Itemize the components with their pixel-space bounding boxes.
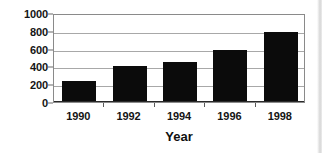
x-axis-tick-label-1996: 1996 <box>217 110 241 123</box>
x-axis-baseline <box>54 101 304 102</box>
x-axis-tick-mark-2 <box>154 103 155 107</box>
y-axis-tick-label-200: 200 <box>30 80 48 91</box>
x-axis-tick-label-1990: 1990 <box>66 110 90 123</box>
x-axis-tick-mark-1 <box>103 103 104 107</box>
bar-slot-1992 <box>104 15 154 102</box>
bar-1998[interactable] <box>264 32 298 102</box>
x-axis-tick-mark-4 <box>255 103 256 107</box>
y-axis-tick-labels: 1000 800 600 400 200 0 <box>2 14 48 103</box>
bar-1996[interactable] <box>213 50 247 103</box>
x-axis-title: Year <box>53 129 305 145</box>
bar-chart: 1000 800 600 400 200 0 <box>0 0 322 153</box>
bar-1990[interactable] <box>62 81 96 102</box>
x-axis-tick-label-1994: 1994 <box>167 110 191 123</box>
x-axis-tick-mark-3 <box>204 103 205 107</box>
bar-slot-1998 <box>256 15 306 102</box>
y-axis-tick-label-1000: 1000 <box>24 9 48 20</box>
y-axis-tick-label-400: 400 <box>30 62 48 73</box>
x-axis-tick-label-1992: 1992 <box>117 110 141 123</box>
scan-edge-artifact <box>317 0 322 153</box>
bar-series <box>54 15 304 102</box>
bar-slot-1994 <box>155 15 205 102</box>
y-axis-tick-label-800: 800 <box>30 26 48 37</box>
y-axis-tick-label-600: 600 <box>30 44 48 55</box>
bar-1992[interactable] <box>113 66 147 103</box>
bar-chart-screenshot: 1000 800 600 400 200 0 <box>0 0 322 153</box>
bar-1994[interactable] <box>163 62 197 102</box>
x-axis-tick-label-1998: 1998 <box>268 110 292 123</box>
plot-area <box>53 14 305 103</box>
x-axis-tick-labels: 1990 1992 1994 1996 1998 <box>53 110 305 126</box>
bar-slot-1990 <box>54 15 104 102</box>
bar-slot-1996 <box>205 15 255 102</box>
